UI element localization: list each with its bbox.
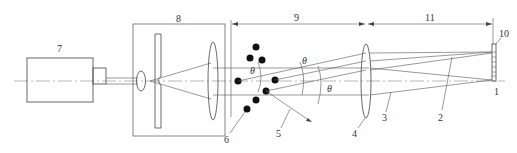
particles bbox=[235, 44, 279, 113]
optical-diagram: 7 8 9 11 6 θ θ bbox=[0, 0, 517, 153]
label-4: 4 bbox=[352, 128, 357, 139]
theta-3: θ bbox=[327, 83, 332, 94]
scatter-arrow-5 bbox=[266, 91, 310, 121]
theta-1: θ bbox=[250, 65, 255, 76]
label-9: 9 bbox=[294, 12, 299, 23]
scatter-ray-3 bbox=[266, 70, 366, 91]
leader-5 bbox=[281, 109, 290, 128]
label-7: 7 bbox=[57, 43, 62, 54]
ray-top-2 bbox=[370, 52, 492, 61]
label-10: 10 bbox=[499, 28, 509, 39]
laser-body bbox=[27, 58, 93, 102]
label-1: 1 bbox=[494, 86, 499, 97]
angle-arc-1 bbox=[258, 62, 261, 92]
diverge-top bbox=[150, 63, 211, 81]
ray-mid-1 bbox=[370, 68, 492, 80]
label-2: 2 bbox=[438, 112, 443, 123]
arrow-9-right bbox=[359, 22, 365, 26]
label-11: 11 bbox=[425, 12, 435, 23]
detector bbox=[492, 44, 496, 81]
ray-mid-2 bbox=[370, 53, 492, 70]
detector-rings bbox=[492, 52, 496, 76]
ray-bottom bbox=[370, 80, 492, 95]
angle-arc-3 bbox=[318, 66, 321, 104]
label-5: 5 bbox=[276, 128, 281, 139]
label-6: 6 bbox=[224, 134, 229, 145]
theta-2: θ bbox=[302, 55, 307, 66]
leader-4 bbox=[358, 118, 365, 128]
ray-top-1 bbox=[370, 52, 492, 53]
leader-6 bbox=[230, 112, 245, 133]
label-3: 3 bbox=[382, 112, 387, 123]
leader-2 bbox=[442, 57, 452, 110]
leader-3 bbox=[386, 92, 391, 112]
arrow-9-left bbox=[232, 22, 238, 26]
arrow-11-right bbox=[486, 22, 492, 26]
label-8: 8 bbox=[176, 13, 181, 24]
diverge-bottom bbox=[150, 81, 211, 99]
arrow-11-left bbox=[368, 22, 374, 26]
expander-box bbox=[133, 24, 225, 136]
laser-nozzle bbox=[93, 68, 106, 84]
diagram-canvas: 7 8 9 11 6 θ θ bbox=[0, 0, 517, 153]
